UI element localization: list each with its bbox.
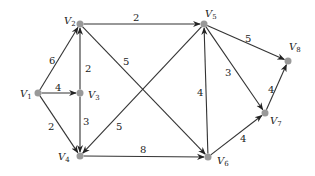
edge-weight-label: 3: [83, 116, 89, 127]
node-label-v8: V8: [289, 41, 301, 54]
node-v2: [77, 21, 84, 28]
node-label-v3: V3: [88, 89, 100, 102]
node-v7: [262, 110, 269, 117]
node-label-v2: V2: [64, 15, 76, 28]
node-label-v1: V1: [20, 88, 32, 101]
graph-canvas: 64223255843544 V1V2V3V4V5V6V7V8: [0, 0, 315, 176]
edge-weight-label: 2: [133, 12, 139, 23]
node-v6: [205, 154, 212, 161]
edge-weights-layer: 64223255843544: [48, 12, 274, 155]
edge-weight-label: 8: [140, 144, 146, 155]
edge-weight-label: 4: [240, 133, 246, 144]
node-v8: [285, 58, 292, 65]
node-v5: [201, 21, 208, 28]
edge-weight-label: 5: [116, 121, 122, 132]
directed-weighted-graph: 64223255843544 V1V2V3V4V5V6V7V8: [0, 0, 315, 176]
edge-weight-label: 6: [49, 55, 55, 66]
node-labels-layer: V1V2V3V4V5V6V7V8: [20, 8, 301, 168]
edge-v4-v6: [83, 156, 204, 157]
node-v4: [77, 153, 84, 160]
node-v3: [77, 90, 84, 97]
edge-weight-label: 5: [245, 33, 251, 44]
edge-weight-label: 3: [225, 67, 231, 78]
edge-v1-v4: [40, 96, 78, 153]
edge-v1-v2: [40, 27, 78, 90]
edge-weight-label: 5: [123, 56, 129, 67]
edge-v6-v7: [211, 115, 262, 154]
node-label-v5: V5: [205, 8, 217, 21]
edge-weight-label: 4: [268, 84, 274, 95]
edge-weight-label: 2: [85, 63, 91, 74]
edge-v5-v7: [206, 27, 263, 110]
edge-v6-v5: [204, 28, 208, 154]
edge-weight-label: 4: [197, 87, 203, 98]
node-label-v4: V4: [58, 151, 70, 164]
node-v1: [35, 90, 42, 97]
edge-v2-v6: [82, 27, 205, 155]
edge-weight-label: 2: [48, 121, 54, 132]
edge-weight-label: 4: [55, 82, 61, 93]
node-label-v6: V6: [217, 155, 229, 168]
nodes-layer: [35, 21, 292, 161]
node-label-v7: V7: [270, 115, 282, 128]
